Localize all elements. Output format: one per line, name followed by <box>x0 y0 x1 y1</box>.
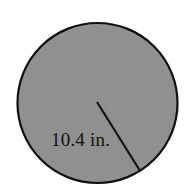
diagram-canvas: 10.4 in. <box>0 0 196 188</box>
circle-diagram-figure: 10.4 in. <box>0 0 196 188</box>
radius-measurement-label: 10.4 in. <box>51 129 110 150</box>
